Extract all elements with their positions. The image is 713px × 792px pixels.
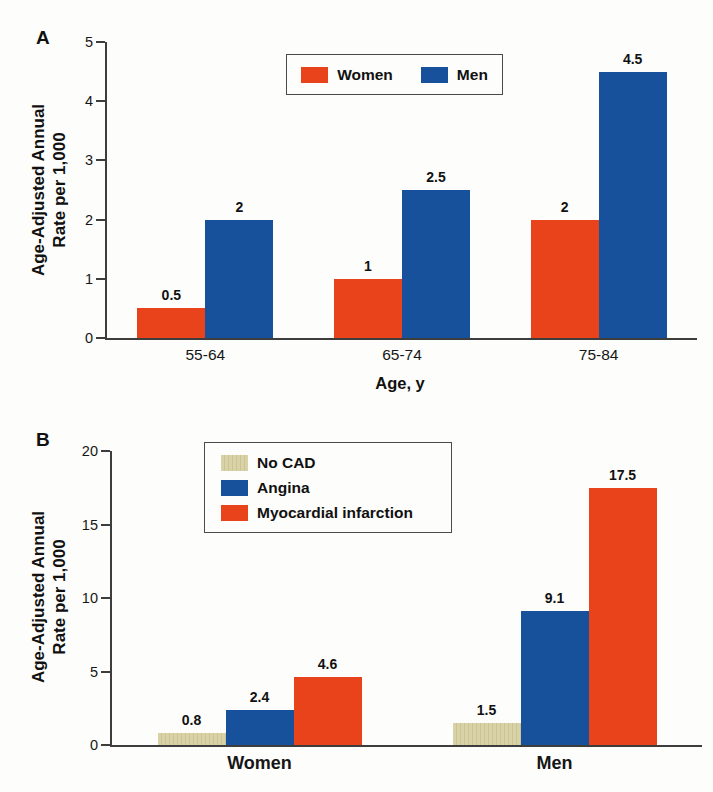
bar-myocardial-infarction-women — [294, 677, 362, 745]
bar-value-label: 0.8 — [182, 712, 201, 728]
legend-label: Men — [457, 66, 488, 84]
y-axis-tick — [96, 278, 105, 280]
bar-value-label: 1 — [364, 258, 372, 274]
y-axis-tick-label: 15 — [62, 517, 98, 533]
bar-value-label: 2.5 — [426, 169, 445, 185]
panel-a-y-axis-title: Age-Adjusted Annual Rate per 1,000 — [28, 104, 70, 276]
legend-swatch-icon — [221, 480, 248, 496]
y-axis-tick — [96, 337, 105, 339]
bar-value-label: 2.4 — [250, 689, 269, 705]
bar-angina-men — [521, 611, 589, 745]
legend-item-no-cad: No CAD — [221, 454, 451, 472]
legend-item-women: Women — [301, 66, 393, 84]
bar-women-75-84 — [531, 220, 599, 338]
legend-item-myocardial-infarction: Myocardial infarction — [221, 504, 451, 522]
panel-a-x-axis-title: Age, y — [375, 374, 425, 393]
bar-value-label: 2 — [561, 199, 569, 215]
y-axis-tick-label: 5 — [62, 664, 98, 680]
x-axis-category-label: 65-74 — [382, 346, 422, 364]
legend-item-men: Men — [421, 66, 488, 84]
legend-label: Angina — [257, 479, 310, 497]
bar-women-55-64 — [137, 308, 205, 338]
y-axis-title-line: Age-Adjusted Annual — [28, 104, 49, 276]
y-axis-tick — [101, 671, 110, 673]
panel-a-legend: WomenMen — [286, 54, 503, 95]
legend-label: Women — [337, 66, 393, 84]
legend-swatch-icon — [221, 455, 248, 471]
bar-angina-women — [226, 710, 294, 745]
figure: A Age-Adjusted Annual Rate per 1,000 012… — [0, 0, 713, 792]
bar-men-65-74 — [402, 190, 470, 338]
y-axis-tick-label: 20 — [62, 443, 98, 459]
legend-label: Myocardial infarction — [257, 504, 413, 522]
x-axis-category-label: Men — [537, 753, 573, 774]
bar-value-label: 4.5 — [623, 51, 642, 67]
y-axis-tick-label: 3 — [57, 152, 93, 168]
y-axis-tick-label: 2 — [57, 212, 93, 228]
bar-value-label: 4.6 — [318, 656, 337, 672]
y-axis-tick — [96, 159, 105, 161]
y-axis-title-line: Age-Adjusted Annual — [28, 511, 49, 683]
legend-item-angina: Angina — [221, 479, 451, 497]
y-axis-tick — [101, 597, 110, 599]
y-axis-tick-label: 4 — [57, 93, 93, 109]
bar-value-label: 0.5 — [162, 287, 181, 303]
panel-b-legend: No CADAnginaMyocardial infarction — [204, 442, 452, 533]
y-axis-tick-label: 0 — [57, 330, 93, 346]
y-axis-tick — [96, 41, 105, 43]
y-axis-tick — [96, 219, 105, 221]
bar-men-55-64 — [205, 220, 273, 338]
bar-men-75-84 — [599, 72, 667, 338]
legend-swatch-icon — [301, 67, 328, 83]
x-axis-category-label: Women — [227, 753, 292, 774]
panel-a-label: A — [36, 27, 50, 49]
y-axis-tick — [96, 100, 105, 102]
legend-swatch-icon — [221, 505, 248, 521]
bar-value-label: 1.5 — [477, 702, 496, 718]
legend-label: No CAD — [257, 454, 316, 472]
bar-no-cad-men — [453, 723, 521, 745]
bar-women-65-74 — [334, 279, 402, 338]
x-axis-category-label: 75-84 — [579, 346, 619, 364]
y-axis-tick-label: 0 — [62, 737, 98, 753]
bar-value-label: 2 — [235, 199, 243, 215]
bar-no-cad-women — [158, 733, 226, 745]
bar-value-label: 17.5 — [609, 467, 636, 483]
y-axis-title-line: Rate per 1,000 — [49, 104, 70, 276]
legend-swatch-icon — [421, 67, 448, 83]
y-axis-tick — [101, 450, 110, 452]
y-axis-tick-label: 10 — [62, 590, 98, 606]
y-axis-tick-label: 1 — [57, 271, 93, 287]
bar-value-label: 9.1 — [545, 590, 564, 606]
y-axis-tick-label: 5 — [57, 34, 93, 50]
y-axis-tick — [101, 524, 110, 526]
y-axis-tick — [101, 744, 110, 746]
panel-b-label: B — [36, 429, 50, 451]
bar-myocardial-infarction-men — [589, 488, 657, 745]
x-axis-category-label: 55-64 — [186, 346, 226, 364]
